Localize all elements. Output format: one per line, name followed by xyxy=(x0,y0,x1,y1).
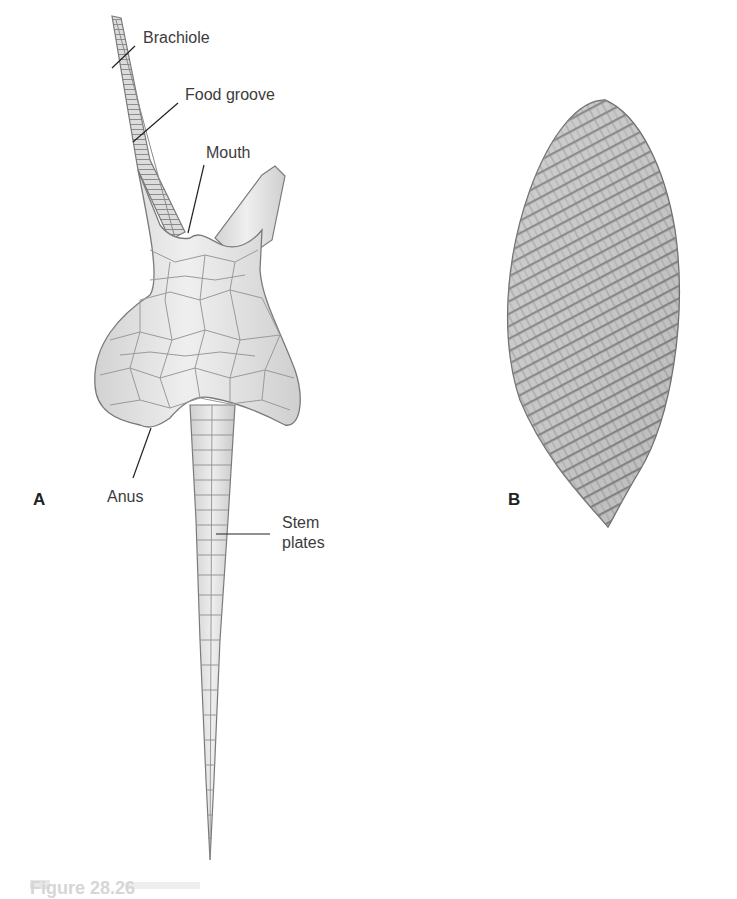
label-stem-plates-line2: plates xyxy=(282,533,325,552)
figure-caption: Figure 28.26 xyxy=(30,878,135,899)
panel-letter-b: B xyxy=(508,490,520,510)
leader-anus xyxy=(133,428,151,478)
label-anus: Anus xyxy=(107,487,143,506)
leader-mouth xyxy=(188,165,204,233)
label-brachiole: Brachiole xyxy=(143,28,210,47)
label-mouth: Mouth xyxy=(206,143,250,162)
panel-letter-a: A xyxy=(33,490,45,510)
specimen-b xyxy=(508,100,680,527)
label-food-groove: Food groove xyxy=(185,85,275,104)
label-stem-plates-line1: Stem xyxy=(282,513,319,532)
specimen-a xyxy=(95,16,300,860)
